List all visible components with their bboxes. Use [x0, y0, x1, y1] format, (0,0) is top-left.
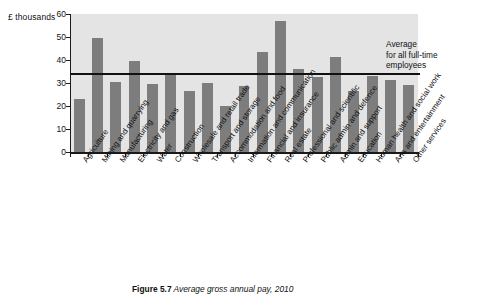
- category-labels: AgricultureMining and quarryingManufactu…: [0, 0, 480, 296]
- figure-container: £ thousands 0102030405060 Average for al…: [0, 0, 480, 296]
- caption-text: Average gross annual pay, 2010: [172, 284, 294, 294]
- x-category-label: Water: [155, 142, 174, 164]
- figure-number: Figure 5.7: [132, 284, 172, 294]
- figure-caption: Figure 5.7 Average gross annual pay, 201…: [132, 284, 293, 294]
